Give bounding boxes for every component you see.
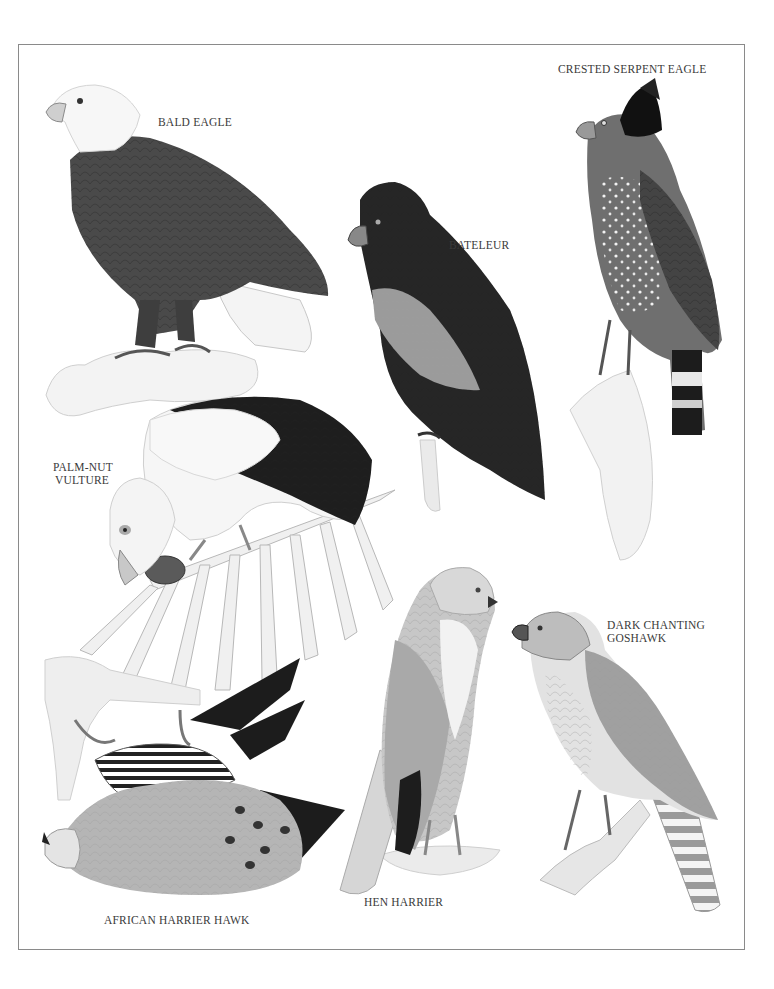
label-bateleur: BATELEUR xyxy=(449,239,509,252)
hen-harrier-illustration xyxy=(340,568,500,894)
label-dark-chanting-goshawk-line2: GOSHAWK xyxy=(607,632,666,645)
label-palm-nut-vulture-line1: PALM-NUT xyxy=(53,461,113,474)
bird-plates xyxy=(0,0,774,989)
label-hen-harrier: HEN HARRIER xyxy=(364,896,443,909)
bald-eagle-illustration xyxy=(46,85,328,416)
label-dark-chanting-goshawk-line1: DARK CHANTING xyxy=(607,619,705,632)
crested-serpent-eagle-illustration xyxy=(570,78,722,560)
label-palm-nut-vulture-line2: VULTURE xyxy=(55,474,109,487)
dark-chanting-goshawk-illustration xyxy=(512,612,720,912)
label-crested-serpent-eagle: CRESTED SERPENT EAGLE xyxy=(558,63,706,76)
bateleur-illustration xyxy=(348,182,545,511)
african-harrier-hawk-illustration xyxy=(42,657,345,895)
palm-nut-vulture-illustration xyxy=(80,397,395,690)
label-african-harrier-hawk: AFRICAN HARRIER HAWK xyxy=(104,914,250,927)
label-bald-eagle: BALD EAGLE xyxy=(158,116,232,129)
